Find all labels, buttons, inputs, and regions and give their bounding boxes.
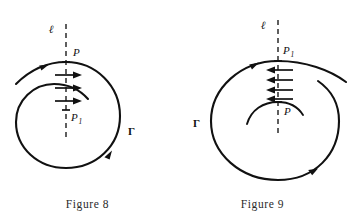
flux-arrow — [266, 66, 293, 73]
figure-8-point-P1-subscript: 1 — [79, 117, 83, 126]
figure-9-flux-arrows — [266, 66, 293, 102]
flux-arrow — [266, 86, 293, 93]
figure-9-line-label: ℓ — [261, 19, 266, 31]
figure-9-point-P1-label: P — [282, 44, 290, 56]
flux-arrow — [55, 71, 82, 78]
flux-arrow — [55, 97, 82, 104]
figure-9-inner-arc — [247, 102, 303, 124]
figure-8-drawing: ℓ P P 1 Γ — [0, 0, 175, 200]
figure-9-point-P-label: P — [283, 105, 291, 117]
figure-8-panel: ℓ P P 1 Γ Figure 8 — [0, 0, 175, 224]
figure-9-caption: Figure 9 — [175, 198, 350, 210]
figure-9-point-P1-subscript: 1 — [291, 50, 295, 59]
figure-8-flux-arrows — [55, 71, 82, 104]
figure-9-panel: ℓ P 1 P Γ Figure 9 — [175, 0, 350, 224]
figure-plate: ℓ P P 1 Γ Figure 8 — [0, 0, 350, 224]
figure-8-point-P-label: P — [72, 46, 80, 58]
flux-arrow — [266, 76, 293, 83]
figure-8-curve-label: Γ — [128, 125, 135, 137]
figure-8-curve-arrowhead-top — [39, 64, 49, 70]
figure-9-curve-label: Γ — [193, 117, 200, 129]
figure-8-point-P1-label: P — [70, 111, 78, 123]
figure-8-spiral-curve — [16, 62, 120, 168]
figure-8-caption: Figure 8 — [0, 198, 175, 210]
figure-9-curve-arrowhead-bottom — [308, 169, 318, 176]
figure-9-drawing: ℓ P 1 P Γ — [175, 0, 350, 200]
figure-9-curve-arrowhead-top — [249, 63, 259, 70]
figure-8-line-label: ℓ — [49, 23, 54, 35]
